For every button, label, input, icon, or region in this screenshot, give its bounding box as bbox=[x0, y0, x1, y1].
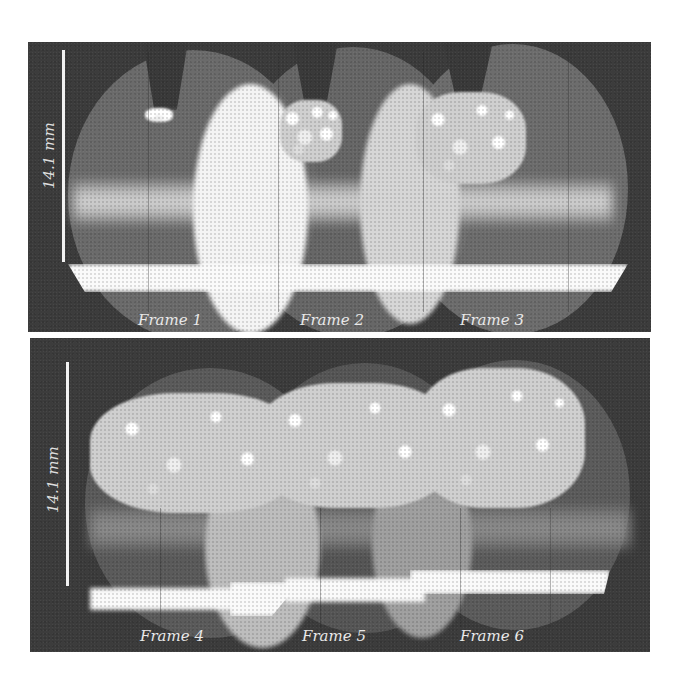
frame-label-2: Frame 2 bbox=[300, 311, 364, 329]
frame-label-1: Frame 1 bbox=[138, 311, 202, 329]
bottom-image-panel: 14.1 mm Frame 4 Frame 5 Frame 6 bbox=[30, 338, 650, 652]
illumination-band bbox=[90, 508, 630, 548]
spray-plume-frame-2 bbox=[280, 100, 342, 162]
sensor-streak bbox=[460, 508, 461, 628]
scale-bar-label: 14.1 mm bbox=[40, 122, 58, 189]
sensor-streak bbox=[148, 52, 149, 312]
spray-plume-frame-3 bbox=[416, 92, 526, 184]
sensor-streak bbox=[423, 52, 424, 312]
scale-bar bbox=[66, 362, 69, 586]
spray-plume-frame-6 bbox=[415, 368, 585, 508]
sensor-streak bbox=[568, 52, 569, 312]
sensor-streak bbox=[278, 52, 279, 312]
frame-label-4: Frame 4 bbox=[140, 627, 204, 645]
wall-reflection-bar bbox=[68, 264, 628, 292]
top-image-panel: 14.1 mm Frame 1 Frame 2 Frame 3 bbox=[28, 42, 651, 332]
illumination-band bbox=[73, 182, 613, 222]
frame-label-5: Frame 5 bbox=[302, 627, 366, 645]
sensor-streak bbox=[160, 508, 161, 628]
scale-bar bbox=[62, 50, 65, 262]
frame-label-6: Frame 6 bbox=[460, 627, 524, 645]
wall-reflection-bar bbox=[285, 578, 425, 602]
sensor-streak bbox=[550, 508, 551, 628]
wall-reflection-bar bbox=[410, 570, 610, 594]
wall-reflection-bar bbox=[90, 588, 240, 610]
frame-label-3: Frame 3 bbox=[460, 311, 524, 329]
scale-bar-label: 14.1 mm bbox=[44, 446, 62, 513]
sensor-streak bbox=[320, 508, 321, 628]
spray-plume-frame-1 bbox=[145, 108, 173, 122]
